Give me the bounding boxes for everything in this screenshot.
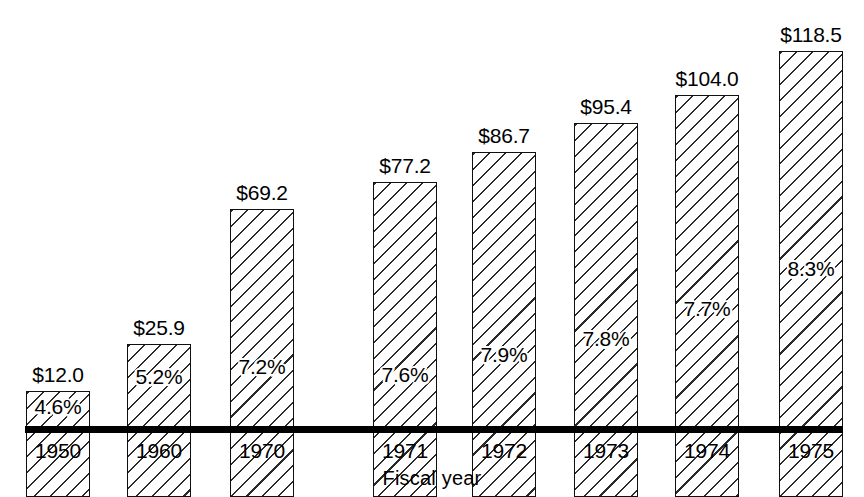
x-axis-title: Fiscal year	[383, 468, 482, 488]
bar-group: $25.9 5.2%	[127, 0, 191, 497]
bar-value-label: $95.4	[580, 96, 632, 117]
bar-value-label: $12.0	[32, 364, 84, 385]
bar-percent-label: 7.9%	[480, 344, 527, 365]
bar-group: $104.0 7.7%	[675, 0, 739, 497]
bar-value-label: $104.0	[675, 68, 738, 89]
x-tick-label: 1974	[684, 440, 730, 461]
x-tick-label: 1973	[583, 440, 629, 461]
bar-percent-label: 7.7%	[683, 298, 730, 319]
x-tick-label: 1950	[35, 440, 81, 461]
x-tick-label: 1971	[382, 440, 428, 461]
x-tick-label: 1972	[481, 440, 527, 461]
plot-area: $12.0 4.6% $25.9 5.2% $69.2 7.2% $77.2 7…	[0, 0, 864, 497]
bar-percent-label: 7.8%	[582, 328, 629, 349]
bar[interactable]	[675, 95, 739, 497]
bar-group: $77.2 7.6%	[373, 0, 437, 497]
x-tick-label: 1975	[788, 440, 834, 461]
bar-chart: $12.0 4.6% $25.9 5.2% $69.2 7.2% $77.2 7…	[0, 0, 864, 497]
x-tick-label: 1970	[239, 440, 285, 461]
bar-percent-label: 7.2%	[238, 356, 285, 377]
x-axis-line	[25, 426, 843, 433]
bar-percent-label: 7.6%	[381, 364, 428, 385]
bar-group: $69.2 7.2%	[230, 0, 294, 497]
bar-group: $118.5 8.3%	[779, 0, 843, 497]
bar-value-label: $118.5	[780, 24, 841, 45]
bar-value-label: $77.2	[379, 155, 431, 176]
bar-value-label: $69.2	[236, 182, 288, 203]
bar-percent-label: 4.6%	[34, 396, 81, 417]
x-tick-label: 1960	[136, 440, 182, 461]
bar-value-label: $86.7	[478, 125, 530, 146]
bar-group: $86.7 7.9%	[472, 0, 536, 497]
bar-group: $95.4 7.8%	[574, 0, 638, 497]
bar-group: $12.0 4.6%	[26, 0, 90, 497]
bar-percent-label: 8.3%	[787, 258, 834, 279]
bar-percent-label: 5.2%	[135, 366, 182, 387]
bar-value-label: $25.9	[133, 317, 185, 338]
